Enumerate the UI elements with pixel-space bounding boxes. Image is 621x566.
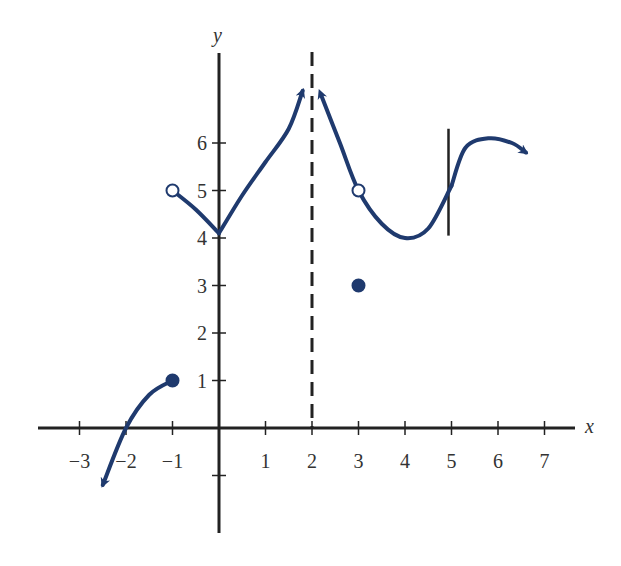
x-tick-label: −3: [69, 450, 90, 472]
x-tick-label: −2: [115, 450, 136, 472]
x-tick-label: −1: [162, 450, 183, 472]
x-tick-label: 2: [307, 450, 317, 472]
curve-branch-right-of-asymptote: [321, 96, 451, 239]
x-tick-label: 6: [493, 450, 503, 472]
function-graph: −3−2−11234567123456 x y: [0, 0, 621, 566]
x-tick-label: 1: [261, 450, 271, 472]
closed-point: [353, 280, 365, 292]
curve-branch-far-right: [452, 138, 526, 186]
x-tick-label: 4: [400, 450, 410, 472]
open-point: [353, 185, 365, 197]
y-tick-label: 3: [197, 275, 207, 297]
x-tick-label: 5: [447, 450, 457, 472]
y-tick-label: 4: [197, 227, 207, 249]
y-tick-label: 5: [197, 180, 207, 202]
axes: −3−2−11234567123456: [38, 53, 575, 533]
x-tick-label: 3: [354, 450, 364, 472]
labels: x y: [211, 24, 594, 437]
x-tick-label: 7: [540, 450, 550, 472]
reference-lines: [312, 52, 449, 428]
y-axis-label: y: [211, 24, 222, 47]
closed-point: [167, 375, 179, 387]
y-tick-label: 1: [197, 370, 207, 392]
curve-branch-left-upper: [173, 191, 220, 234]
curves: [103, 91, 526, 485]
y-tick-label: 2: [197, 322, 207, 344]
y-tick-label: 6: [197, 132, 207, 154]
open-point: [167, 185, 179, 197]
x-axis-label: x: [584, 415, 594, 437]
curve-branch-rising: [219, 91, 303, 234]
